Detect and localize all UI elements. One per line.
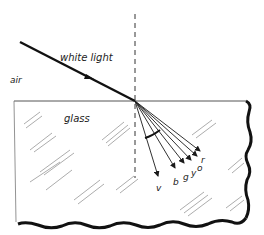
ray-label-y: y: [190, 168, 197, 178]
ray-label-v: v: [156, 183, 162, 193]
label-glass: glass: [64, 113, 90, 124]
incident-ray: [20, 42, 135, 101]
label-white-light: white light: [60, 52, 114, 63]
dispersion-diagram: white light air glass v b g y o r: [0, 0, 264, 235]
label-air: air: [10, 75, 23, 85]
glass-block: [14, 101, 251, 228]
ray-label-g: g: [183, 172, 189, 182]
ray-label-b: b: [173, 177, 179, 187]
